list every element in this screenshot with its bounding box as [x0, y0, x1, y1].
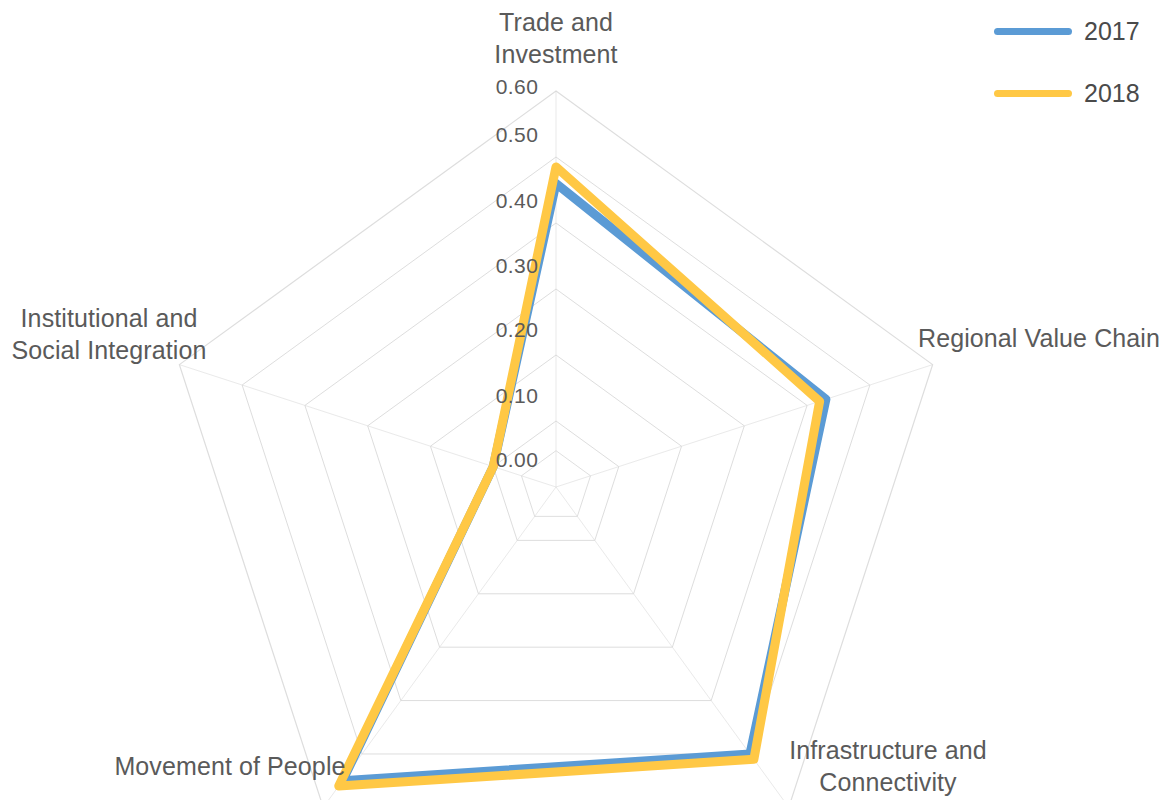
legend-item-2017[interactable]: 2017: [994, 0, 1144, 62]
tick-label-0-40: 0.40: [472, 189, 562, 213]
legend-label-2018: 2018: [1084, 79, 1140, 108]
tick-label-0-20: 0.20: [472, 318, 562, 342]
legend-swatch-2018: [994, 90, 1072, 97]
tick-label-0-00: 0.00: [472, 448, 562, 472]
axis-label-trade-and-investment: Trade and Investment: [456, 6, 656, 70]
legend-label-2017: 2017: [1084, 17, 1140, 46]
axis-label-infrastructure-and-connectivity: Infrastructure and Connectivity: [768, 734, 1008, 798]
axis-label-movement-of-people: Movement of People: [100, 750, 360, 782]
radar-series-group: [339, 167, 826, 786]
legend-item-2018[interactable]: 2018: [994, 62, 1144, 124]
axis-spoke: [556, 365, 933, 487]
series-line-2017: [343, 183, 826, 780]
legend-swatch-2017: [994, 28, 1072, 35]
tick-label-0-50: 0.50: [472, 123, 562, 147]
axis-label-regional-value-chain: Regional Value Chain: [918, 322, 1162, 354]
series-line-2018: [339, 167, 820, 786]
tick-label-0-30: 0.30: [472, 254, 562, 278]
tick-label-0-60: 0.60: [472, 75, 562, 99]
axis-label-institutional-and-social-integration: Institutional and Social Integration: [0, 302, 224, 366]
radar-plot-area: [0, 0, 1162, 800]
tick-label-0-10: 0.10: [472, 384, 562, 408]
chart-legend: 2017 2018: [994, 0, 1144, 124]
radar-chart: Trade and Investment Regional Value Chai…: [0, 0, 1162, 800]
